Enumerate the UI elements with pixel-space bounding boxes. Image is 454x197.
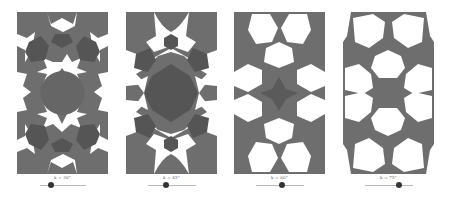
pattern-panel-2 xyxy=(126,12,217,174)
tiling-pattern-2 xyxy=(126,12,217,174)
tiling-pattern-1 xyxy=(17,12,108,174)
slider-label-1: k = 30° xyxy=(17,175,108,180)
slider-handle-2[interactable] xyxy=(163,182,169,188)
angle-slider-4[interactable]: k = 75° xyxy=(343,175,434,191)
slider-track-2[interactable] xyxy=(148,185,196,186)
slider-label-2: k = 45° xyxy=(126,175,217,180)
slider-track-4[interactable] xyxy=(365,185,413,186)
slider-handle-4[interactable] xyxy=(396,182,402,188)
tiling-pattern-3 xyxy=(234,12,325,174)
pattern-panel-3 xyxy=(234,12,325,174)
slider-handle-1[interactable] xyxy=(48,182,54,188)
slider-handle-3[interactable] xyxy=(279,182,285,188)
angle-slider-3[interactable]: k = 60° xyxy=(234,175,325,191)
pattern-panel-4 xyxy=(343,12,434,174)
slider-label-4: k = 75° xyxy=(343,175,434,180)
slider-label-3: k = 60° xyxy=(234,175,325,180)
pattern-panel-1 xyxy=(17,12,108,174)
slider-track-1[interactable] xyxy=(40,185,86,186)
angle-slider-2[interactable]: k = 45° xyxy=(126,175,217,191)
tiling-pattern-4 xyxy=(343,12,434,174)
angle-slider-1[interactable]: k = 30° xyxy=(17,175,108,191)
